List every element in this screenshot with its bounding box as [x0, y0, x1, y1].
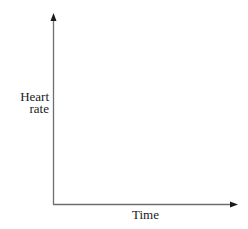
- y-axis-arrow-icon: [51, 13, 57, 21]
- x-axis-label: Time: [132, 208, 159, 222]
- chart: Heart rate Time: [0, 0, 248, 229]
- y-axis-label: Heart rate: [20, 91, 49, 115]
- x-axis-arrow-icon: [230, 202, 238, 208]
- y-axis-label-line-2: rate: [20, 103, 49, 115]
